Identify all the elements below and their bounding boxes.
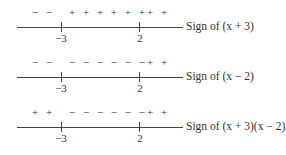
signs-middle: − − − − − − (69, 56, 147, 68)
number-line (17, 27, 183, 28)
sign-row-x-minus-2: − − − − − − − − + + −3 2 Sign of (x − 2) (0, 50, 286, 100)
signs-right: + + (147, 6, 170, 18)
tick-label-minus-3: −3 (55, 32, 67, 44)
signs-left: − − (32, 56, 55, 68)
number-line (17, 77, 183, 78)
tick-2 (139, 72, 140, 82)
signs-left: + + (32, 106, 55, 118)
row-caption: Sign of (x − 2) (186, 70, 254, 82)
tick-label-minus-3: −3 (55, 82, 67, 94)
row-caption: Sign of (x + 3)(x − 2) (186, 120, 285, 132)
number-line (17, 127, 183, 128)
signs-right: + + (147, 56, 170, 68)
signs-middle: − − − − − − (69, 106, 147, 118)
tick-label-2: 2 (137, 132, 143, 144)
tick-minus-3 (61, 122, 62, 132)
tick-2 (139, 122, 140, 132)
signs-left: − − (32, 6, 55, 18)
tick-2 (139, 22, 140, 32)
signs-right: + + (147, 106, 170, 118)
row-caption: Sign of (x + 3) (186, 20, 254, 32)
sign-row-x-plus-3: − − + + + + + + + + −3 2 Sign of (x + 3) (0, 0, 286, 50)
tick-minus-3 (61, 22, 62, 32)
sign-row-product: + + − − − − − − + + −3 2 Sign of (x + 3)… (0, 100, 286, 150)
signs-middle: + + + + + + (69, 6, 147, 18)
tick-label-minus-3: −3 (55, 132, 67, 144)
tick-minus-3 (61, 72, 62, 82)
tick-label-2: 2 (137, 32, 143, 44)
tick-label-2: 2 (137, 82, 143, 94)
